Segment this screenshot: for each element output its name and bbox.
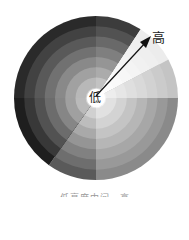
outer-label-high: 高 (152, 31, 165, 44)
center-label-low: 低 (89, 92, 101, 104)
caption: 低亮度中间，高 (0, 191, 189, 197)
